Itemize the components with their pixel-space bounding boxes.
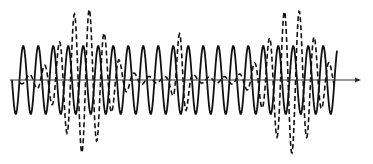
axis-arrow-icon xyxy=(355,78,361,83)
wave-diagram xyxy=(0,0,373,164)
wave-plot xyxy=(0,0,373,164)
